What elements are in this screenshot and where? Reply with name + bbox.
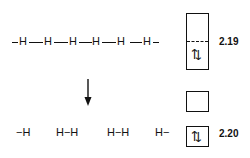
atom-h: H bbox=[19, 36, 27, 47]
spin-pair-icon: ⇅ bbox=[191, 48, 200, 61]
bond bbox=[130, 42, 142, 43]
bond bbox=[79, 42, 92, 43]
bond bbox=[29, 42, 43, 43]
fragment: −H bbox=[16, 127, 30, 138]
arrow-down-icon bbox=[82, 79, 94, 107]
equation-label: 2.19 bbox=[219, 36, 238, 47]
fragment: H− bbox=[155, 127, 169, 138]
band-box-2-19: ⇅ bbox=[186, 13, 209, 70]
atom-h: H bbox=[117, 36, 125, 47]
equation-label: 2.20 bbox=[219, 128, 238, 139]
bond-trail bbox=[153, 42, 159, 43]
bond bbox=[54, 42, 68, 43]
bond bbox=[102, 42, 116, 43]
atom-h: H bbox=[69, 36, 77, 47]
atom-h: H bbox=[92, 36, 100, 47]
fermi-level-dashed-line bbox=[187, 41, 208, 42]
empty-band-box bbox=[186, 91, 209, 112]
bond-lead bbox=[12, 42, 18, 43]
atom-h: H bbox=[143, 36, 151, 47]
fragment: H−H bbox=[107, 127, 129, 138]
fragment: H−H bbox=[56, 127, 78, 138]
filled-band-box: ⇅ bbox=[186, 126, 209, 147]
spin-pair-icon: ⇅ bbox=[191, 130, 200, 143]
atom-h: H bbox=[44, 36, 52, 47]
